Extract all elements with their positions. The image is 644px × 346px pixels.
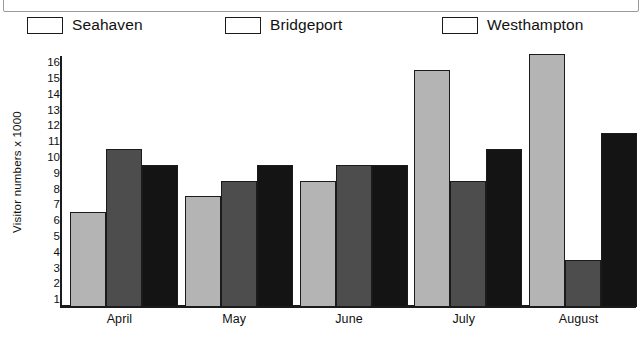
y-tick-10: 10 (38, 152, 60, 164)
x-tick-april: April (62, 312, 177, 326)
x-tick-july: July (406, 312, 521, 326)
legend-item-bridgeport: Bridgeport (225, 16, 343, 34)
bar-bridgeport-august (565, 260, 601, 307)
bar-group-april (62, 46, 177, 307)
bar-seahaven-april (70, 212, 106, 307)
legend-label-bridgeport: Bridgeport (270, 16, 343, 34)
legend-swatch-bridgeport (225, 17, 261, 34)
x-tick-august: August (521, 312, 636, 326)
bar-group-august (521, 46, 636, 307)
x-axis-category-labels: AprilMayJuneJulyAugust (62, 312, 636, 336)
bar-groups (62, 46, 636, 307)
y-tick-13: 13 (38, 105, 60, 117)
x-tick-may: May (177, 312, 292, 326)
bar-seahaven-may (185, 196, 221, 307)
bar-bridgeport-may (221, 181, 257, 307)
bar-westhampton-june (372, 165, 408, 307)
y-tick-2: 2 (38, 278, 60, 290)
y-tick-6: 6 (38, 215, 60, 227)
y-tick-14: 14 (38, 89, 60, 101)
bar-westhampton-july (486, 149, 522, 307)
bar-group-june (292, 46, 407, 307)
y-tick-5: 5 (38, 231, 60, 243)
chart-legend: Seahaven Bridgeport Westhampton (0, 16, 644, 46)
bar-bridgeport-july (450, 181, 486, 307)
y-tick-12: 12 (38, 120, 60, 132)
legend-swatch-westhampton (442, 17, 478, 34)
bar-seahaven-july (414, 70, 450, 307)
bar-seahaven-june (300, 181, 336, 307)
y-tick-8: 8 (38, 184, 60, 196)
y-tick-1: 1 (38, 294, 60, 306)
bar-group-july (406, 46, 521, 307)
legend-label-seahaven: Seahaven (72, 16, 143, 34)
y-tick-9: 9 (38, 168, 60, 180)
bar-group-may (177, 46, 292, 307)
y-tick-7: 7 (38, 199, 60, 211)
y-axis-tick-labels: 16151413121110987654321 (38, 46, 60, 346)
y-tick-15: 15 (38, 73, 60, 85)
legend-item-seahaven: Seahaven (27, 16, 143, 34)
y-tick-11: 11 (38, 136, 60, 148)
bar-westhampton-may (257, 165, 293, 307)
y-tick-16: 16 (38, 57, 60, 69)
bar-bridgeport-april (106, 149, 142, 307)
bar-westhampton-april (142, 165, 178, 307)
legend-item-westhampton: Westhampton (442, 16, 583, 34)
legend-swatch-seahaven (27, 17, 63, 34)
y-axis-title: Visitor numbers x 1000 (11, 72, 23, 272)
bar-bridgeport-june (336, 165, 372, 307)
y-tick-3: 3 (38, 263, 60, 275)
y-tick-4: 4 (38, 247, 60, 259)
bar-seahaven-august (529, 54, 565, 307)
legend-label-westhampton: Westhampton (487, 16, 583, 34)
chart-plot-area: Visitor numbers x 1000 16151413121110987… (0, 46, 644, 346)
x-tick-june: June (292, 312, 407, 326)
bar-westhampton-august (601, 133, 637, 307)
top-border-frame (3, 0, 639, 12)
